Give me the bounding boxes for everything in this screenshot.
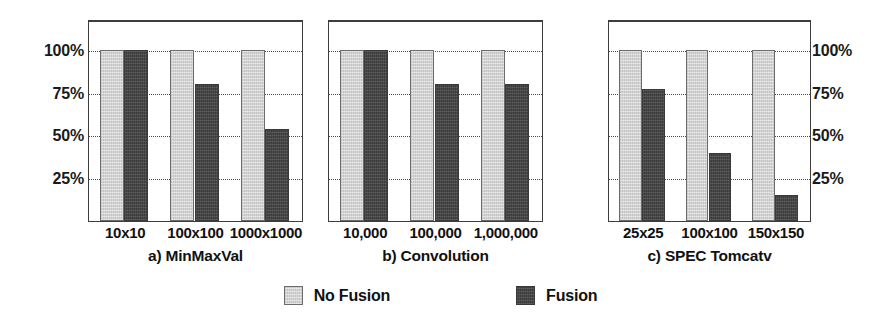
bar-b-100000-fusion: [435, 84, 459, 221]
bar-c-25x25-fusion: [642, 89, 665, 221]
y-axis-tick-right-100: 100%: [812, 43, 874, 59]
y-axis-tick-left-75: 75%: [22, 86, 84, 102]
panel-title-a: a) MinMaxVal: [88, 247, 303, 265]
x-axis-tick-a-0: 10x10: [105, 225, 145, 240]
bars-layer-a: [89, 22, 302, 221]
bar-b-1000000-no-fusion: [481, 50, 505, 221]
y-axis-tick-left-25: 25%: [22, 171, 84, 187]
bar-c-100x100-no-fusion: [686, 50, 709, 221]
panel-title-b: b) Convolution: [328, 247, 543, 265]
bar-c-150x150-no-fusion: [752, 50, 775, 221]
bar-b-1000000-fusion: [505, 84, 529, 221]
bar-c-150x150-fusion: [775, 195, 798, 221]
legend-label-no-fusion: No Fusion: [314, 288, 390, 304]
bar-a-10x10-no-fusion: [100, 50, 124, 221]
legend-entry-no-fusion: No Fusion: [284, 286, 390, 305]
bar-b-100000-no-fusion: [410, 50, 434, 221]
y-axis-tick-right-50: 50%: [812, 128, 874, 144]
panel-title-c: c) SPEC Tomcatv: [608, 247, 811, 265]
x-axis-tick-b-2: 1,000,000: [474, 225, 538, 240]
chart-panel-c: 25x25100x100150x150c) SPEC Tomcatv: [608, 20, 811, 222]
y-axis-labels-left: 100%75%50%25%: [22, 20, 84, 222]
x-axis-labels-c: 25x25100x100150x150: [608, 225, 811, 245]
bar-a-1000x1000-no-fusion: [241, 50, 265, 221]
legend-label-fusion: Fusion: [546, 288, 597, 304]
y-axis-tick-right-75: 75%: [812, 86, 874, 102]
bar-a-100x100-fusion: [195, 84, 219, 221]
bars-layer-b: [329, 22, 542, 221]
y-axis-tick-left-100: 100%: [22, 43, 84, 59]
plot-area-c: [608, 20, 811, 222]
figure-root: 100%75%50%25% 100%75%50%25% 10x10100x100…: [0, 0, 881, 329]
x-axis-labels-a: 10x10100x1001000x1000: [88, 225, 303, 245]
legend-swatch-fusion: [516, 286, 535, 305]
y-axis-labels-right: 100%75%50%25%: [812, 20, 874, 222]
x-axis-tick-b-1: 100,000: [409, 225, 461, 240]
legend-entry-fusion: Fusion: [516, 286, 597, 305]
chart-panel-b: 10,000100,0001,000,000b) Convolution: [328, 20, 543, 222]
bar-a-100x100-no-fusion: [170, 50, 194, 221]
bar-a-10x10-fusion: [124, 50, 148, 221]
x-axis-labels-b: 10,000100,0001,000,000: [328, 225, 543, 245]
y-axis-tick-left-50: 50%: [22, 128, 84, 144]
plot-area-b: [328, 20, 543, 222]
x-axis-tick-b-0: 10,000: [343, 225, 387, 240]
legend-swatch-no-fusion: [284, 286, 303, 305]
bar-c-100x100-fusion: [709, 153, 732, 221]
x-axis-tick-c-2: 150x150: [748, 225, 804, 240]
bars-layer-c: [609, 22, 810, 221]
x-axis-tick-a-1: 100x100: [167, 225, 223, 240]
bar-b-10000-fusion: [364, 50, 388, 221]
bar-c-25x25-no-fusion: [619, 50, 642, 221]
plot-area-a: [88, 20, 303, 222]
y-axis-tick-right-25: 25%: [812, 171, 874, 187]
x-axis-tick-c-0: 25x25: [623, 225, 663, 240]
x-axis-tick-c-1: 100x100: [681, 225, 737, 240]
x-axis-tick-a-2: 1000x1000: [230, 225, 302, 240]
bar-a-1000x1000-fusion: [265, 129, 289, 221]
bar-b-10000-no-fusion: [340, 50, 364, 221]
chart-legend: No FusionFusion: [0, 286, 881, 305]
chart-panel-a: 10x10100x1001000x1000a) MinMaxVal: [88, 20, 303, 222]
